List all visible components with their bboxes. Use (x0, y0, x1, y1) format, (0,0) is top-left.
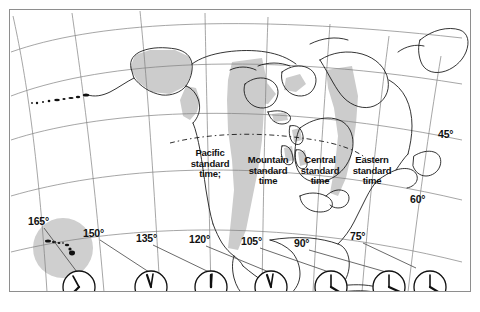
longitude-label-75: 75° (350, 230, 365, 242)
tz-central-line3: time (296, 176, 344, 187)
tz-label-mountain: Mountain standard time (241, 155, 295, 187)
longitude-label-150: 150° (83, 227, 104, 239)
timezone-shading (130, 50, 358, 250)
longitude-label-120: 120° (189, 233, 210, 245)
clock-105 (315, 271, 347, 303)
latitude-label-60: 60° (410, 193, 425, 205)
longitude-label-105: 105° (241, 235, 262, 247)
tz-pacific-line1: Pacific (187, 148, 233, 159)
tz-label-eastern: Eastern standard time (347, 155, 397, 187)
tz-eastern-line1: Eastern (347, 155, 397, 166)
clock-165 (63, 271, 95, 303)
longitude-label-135: 135° (136, 232, 157, 244)
longitude-label-90: 90° (294, 237, 309, 249)
tz-mountain-line1: Mountain (241, 155, 295, 166)
clock-90 (373, 271, 405, 303)
tz-eastern-line3: time (347, 176, 397, 187)
clock-faces (63, 271, 446, 303)
clock-150 (135, 271, 167, 303)
aleutian-islands (31, 93, 89, 104)
clock-75 (414, 271, 446, 303)
tz-pacific-line3: time; (187, 169, 233, 180)
map-graphics (0, 0, 480, 312)
latitude-label-45: 45° (438, 128, 453, 140)
clock-135 (195, 271, 227, 303)
longitude-label-165: 165° (28, 215, 49, 227)
tz-label-central: Central standard time (296, 155, 344, 187)
tz-label-pacific: Pacific standard time; (187, 148, 233, 180)
tz-central-line1: Central (296, 155, 344, 166)
tz-mountain-line3: time (241, 176, 295, 187)
clock-120 (255, 271, 287, 303)
timezone-map: Pacific standard time; Mountain standard… (0, 0, 480, 312)
